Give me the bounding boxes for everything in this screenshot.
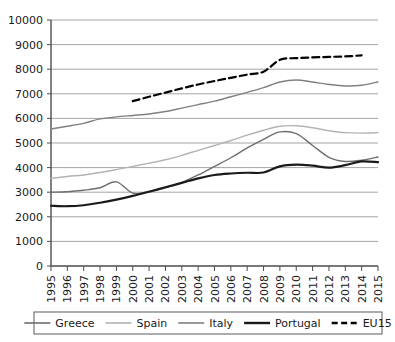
x-tick-label: 2015 [372, 275, 385, 303]
y-tick-label: 5000 [15, 137, 43, 150]
x-tick-label: 2007 [241, 275, 254, 303]
x-tick-label: 2013 [339, 275, 352, 303]
chart-canvas: 0100020003000400050006000700080009000100… [0, 0, 395, 342]
x-tick-label: 2002 [159, 275, 172, 303]
legend-label-italy: Italy [209, 317, 233, 330]
y-tick-label: 10000 [8, 14, 43, 27]
x-axis-tick-labels: 1995199619971998199920002001200220032004… [45, 275, 385, 303]
y-tick-label: 7000 [15, 88, 43, 101]
x-tick-label: 2008 [258, 275, 271, 303]
y-tick-label: 8000 [15, 63, 43, 76]
x-tick-label: 2005 [209, 275, 222, 303]
y-tick-label: 1000 [15, 235, 43, 248]
legend-label-portugal: Portugal [275, 317, 321, 330]
x-tick-label: 2009 [274, 275, 287, 303]
x-tick-label: 2011 [307, 275, 320, 303]
x-axis [51, 266, 378, 271]
x-tick-label: 1996 [61, 275, 74, 303]
legend-label-spain: Spain [136, 317, 167, 330]
x-tick-label: 2014 [356, 275, 369, 303]
y-tick-label: 0 [36, 260, 43, 273]
y-tick-label: 4000 [15, 162, 43, 175]
x-tick-label: 1999 [110, 275, 123, 303]
y-tick-label: 6000 [15, 112, 43, 125]
y-tick-label: 3000 [15, 186, 43, 199]
y-tick-label: 2000 [15, 211, 43, 224]
x-tick-label: 2004 [192, 275, 205, 303]
x-tick-label: 2003 [176, 275, 189, 303]
legend-label-eu15: EU15 [363, 317, 392, 330]
y-tick-label: 9000 [15, 39, 43, 52]
legend-label-greece: Greece [55, 317, 94, 330]
x-tick-label: 1995 [45, 275, 58, 303]
x-tick-label: 2010 [290, 275, 303, 303]
x-tick-label: 1998 [94, 275, 107, 303]
x-tick-label: 2001 [143, 275, 156, 303]
x-tick-label: 2012 [323, 275, 336, 303]
x-tick-label: 2006 [225, 275, 238, 303]
x-tick-label: 2000 [127, 275, 140, 303]
line-chart: 0100020003000400050006000700080009000100… [0, 0, 395, 342]
x-tick-label: 1997 [78, 275, 91, 303]
